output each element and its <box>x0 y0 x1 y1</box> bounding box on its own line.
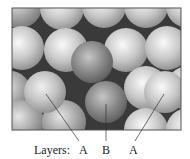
layer-label-a-left: A <box>79 143 88 157</box>
caption-prefix: Layers: <box>34 143 70 157</box>
sphere-packing-diagram: Layers: A B A <box>0 0 190 159</box>
layer-label-a-right: A <box>129 143 138 157</box>
sphere-layer-b-upper <box>71 41 113 83</box>
sphere-layer-a-right <box>144 71 186 113</box>
layer-label-b: B <box>102 143 110 157</box>
packing-box <box>0 0 190 152</box>
layer-caption: Layers: A B A <box>34 143 138 157</box>
sphere-layer-a-left <box>24 71 66 113</box>
